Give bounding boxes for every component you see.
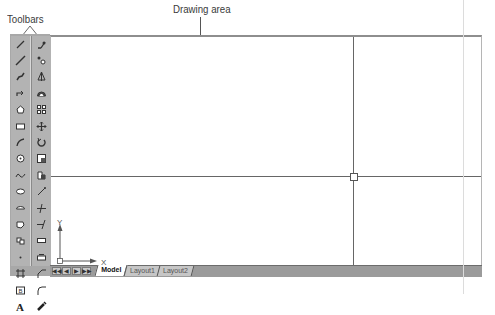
rectangle-icon <box>15 104 26 115</box>
svg-text:B: B <box>19 288 23 294</box>
scale-icon <box>36 153 47 164</box>
arc-button[interactable] <box>11 118 30 134</box>
ellipse-button[interactable] <box>11 167 30 183</box>
callout-toolbars: Toolbars <box>7 13 44 25</box>
hatch-button[interactable] <box>11 249 30 265</box>
autocad-window: Y X B A <box>10 34 482 276</box>
spline-icon <box>15 153 26 164</box>
hatch-icon <box>15 252 26 263</box>
chamfer-icon <box>36 252 47 263</box>
next-tab-icon: ▶ <box>74 268 79 274</box>
crosshair-horizontal <box>50 176 481 177</box>
last-tab-icon: ▶▶ <box>82 268 92 274</box>
ellipse-arc-button[interactable] <box>11 184 30 200</box>
explode-icon <box>36 301 47 312</box>
point-button[interactable] <box>11 233 30 249</box>
construction-line-icon <box>15 55 26 66</box>
trim-button[interactable] <box>32 184 51 200</box>
offset-icon <box>36 88 47 99</box>
draw-toolbar: B A <box>11 36 31 266</box>
scale-button[interactable] <box>32 151 51 167</box>
erase-button[interactable] <box>32 36 51 52</box>
break-at-point-icon <box>36 235 47 246</box>
toolbars-dock: B A <box>10 34 50 276</box>
copy-icon <box>36 55 47 66</box>
tab-layout1[interactable]: Layout1 <box>124 266 162 276</box>
fillet-button[interactable] <box>32 265 51 281</box>
offset-button[interactable] <box>32 85 51 101</box>
move-icon <box>36 121 47 132</box>
array-button[interactable] <box>32 102 51 118</box>
break-at-point-button[interactable] <box>32 233 51 249</box>
fillet-icon <box>36 268 47 279</box>
first-tab-icon: ◀◀ <box>52 268 62 274</box>
break-icon <box>36 219 47 230</box>
mirror-button[interactable] <box>32 69 51 85</box>
circle-icon <box>15 137 26 148</box>
move-button[interactable] <box>32 118 51 134</box>
multiline-text-button[interactable]: A <box>11 298 30 314</box>
layout-tab-bar: ◀◀ ◀ ▶ ▶▶ Model Layout1 Layout2 <box>50 265 482 277</box>
construction-line-button[interactable] <box>11 52 30 68</box>
crosshair-vertical <box>353 37 354 266</box>
callout-drawing-area: Drawing area <box>173 3 231 15</box>
make-block-icon <box>15 219 26 230</box>
insert-block-icon <box>15 203 26 214</box>
copy-button[interactable] <box>32 52 51 68</box>
multiline-text-icon: A <box>15 301 26 312</box>
crosshair-pickbox <box>350 173 358 181</box>
fillet-round-button[interactable] <box>32 282 51 298</box>
explode-button[interactable] <box>32 298 51 314</box>
next-tab-button[interactable]: ▶ <box>72 267 81 275</box>
svg-text:A: A <box>16 301 24 312</box>
spline-button[interactable] <box>11 151 30 167</box>
break-button[interactable] <box>32 216 51 232</box>
rotate-icon <box>36 137 47 148</box>
arc-icon <box>15 121 26 132</box>
make-block-button[interactable] <box>11 216 30 232</box>
stretch-button[interactable] <box>32 167 51 183</box>
extend-icon <box>36 203 47 214</box>
point-icon <box>15 235 26 246</box>
first-tab-button[interactable]: ◀◀ <box>52 267 61 275</box>
extend-button[interactable] <box>32 200 51 216</box>
ucs-y-label: Y <box>57 219 63 227</box>
polyline-icon <box>15 71 26 82</box>
tab-model[interactable]: Model <box>95 265 128 276</box>
trim-icon <box>36 186 47 197</box>
array-icon <box>36 104 47 115</box>
stretch-icon <box>36 170 47 181</box>
ellipse-arc-icon <box>15 186 26 197</box>
line-icon <box>15 39 26 50</box>
insert-block-button[interactable] <box>11 200 30 216</box>
ellipse-icon <box>15 170 26 181</box>
prev-tab-icon: ◀ <box>64 268 69 274</box>
circle-button[interactable] <box>11 134 30 150</box>
table-button[interactable]: B <box>11 282 30 298</box>
modify-toolbar <box>31 36 51 266</box>
fillet-icon <box>36 285 47 296</box>
polygon-icon <box>15 88 26 99</box>
page-edge-line <box>463 0 464 294</box>
erase-icon <box>36 39 47 50</box>
ucs-icon: Y X <box>56 219 116 267</box>
tab-layout2[interactable]: Layout2 <box>157 266 195 276</box>
drawing-area[interactable]: Y X <box>50 35 482 267</box>
prev-tab-button[interactable]: ◀ <box>62 267 71 275</box>
line-button[interactable] <box>11 36 30 52</box>
polygon-button[interactable] <box>11 85 30 101</box>
rectangle-button[interactable] <box>11 102 30 118</box>
rotate-button[interactable] <box>32 134 51 150</box>
region-icon <box>15 268 26 279</box>
mirror-icon <box>36 71 47 82</box>
last-tab-button[interactable]: ▶▶ <box>82 267 91 275</box>
polyline-button[interactable] <box>11 69 30 85</box>
region-text-icon: B <box>15 285 26 296</box>
chamfer-button[interactable] <box>32 249 51 265</box>
region-button[interactable] <box>11 265 30 281</box>
